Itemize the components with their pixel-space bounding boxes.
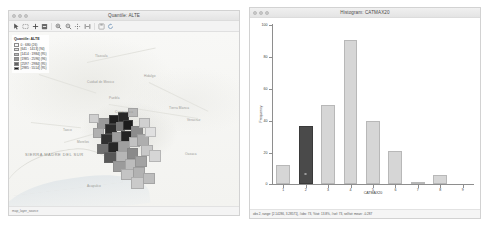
legend-swatch xyxy=(14,48,19,51)
legend-title: Quantile: ALTE xyxy=(14,37,47,42)
histogram-bar-slot[interactable] xyxy=(407,26,429,184)
map-place-label: Acapulco xyxy=(87,184,101,188)
histogram-window-title: Histogram: CATMAX20 xyxy=(250,10,480,15)
histogram-plot-area[interactable]: 0 20 40 60 80 100 xyxy=(272,26,474,185)
save-box-tool[interactable] xyxy=(97,22,105,30)
histogram-bar[interactable] xyxy=(344,40,358,184)
magnify-out-tool[interactable] xyxy=(64,22,72,30)
select-rectangle-tool[interactable] xyxy=(22,22,30,30)
histogram-status-bar: obs 2, range: [2.14286, 3.28571], #obs: … xyxy=(250,209,480,218)
legend-swatch xyxy=(14,62,19,65)
toolbar-separator xyxy=(51,23,52,30)
full-extent-tool[interactable] xyxy=(83,22,91,30)
map-window-titlebar[interactable]: Quantile: ALTE xyxy=(9,11,239,21)
toolbar-separator xyxy=(94,23,95,30)
map-place-label: Hidalgo xyxy=(144,74,156,78)
histogram-window-titlebar[interactable]: Histogram: CATMAX20 xyxy=(250,8,480,18)
y-axis-tick-label: 80 xyxy=(263,55,267,59)
map-status-text: map_layer_source xyxy=(12,209,38,213)
histogram-bar[interactable] xyxy=(433,175,447,184)
legend-swatch xyxy=(14,53,19,56)
selection-marker-icon xyxy=(304,173,306,175)
map-legend: Quantile: ALTE 0 : 680 (26) [641 : 1413]… xyxy=(12,35,49,73)
histogram-window: Histogram: CATMAX20 Frequency 0 20 40 60 xyxy=(249,7,481,219)
map-place-label: Veracruz xyxy=(187,118,200,122)
map-toolbar xyxy=(9,21,239,32)
y-axis-tick-label: 60 xyxy=(263,87,267,91)
choropleth-polygon[interactable] xyxy=(143,173,155,184)
histogram-bar[interactable] xyxy=(276,165,290,184)
histogram-status-text: obs 2, range: [2.14286, 3.28571], #obs: … xyxy=(253,212,372,216)
magnify-in-tool[interactable] xyxy=(55,22,63,30)
histogram-bar-slot[interactable] xyxy=(429,26,451,184)
histogram-bar[interactable] xyxy=(366,121,380,184)
legend-swatch xyxy=(14,43,19,46)
y-axis-tick-label: 20 xyxy=(263,151,267,155)
y-axis-tick-label: 0 xyxy=(265,182,267,186)
y-axis-tick-label: 100 xyxy=(261,23,267,27)
histogram-canvas[interactable]: Frequency 0 20 40 60 80 xyxy=(250,18,480,209)
histogram-bar-slot[interactable] xyxy=(362,26,384,184)
histogram-bar[interactable] xyxy=(411,182,425,184)
histogram-bar-slot[interactable] xyxy=(384,26,406,184)
map-place-label: Tlaxcala xyxy=(95,54,108,58)
map-place-label: Taxco xyxy=(63,128,72,132)
histogram-bars xyxy=(272,26,474,184)
map-place-label: Morelos xyxy=(77,140,89,144)
map-region-label: SIERRA MADRE DEL SUR xyxy=(25,152,84,157)
histogram-bar-slot[interactable] xyxy=(317,26,339,184)
map-place-label: Cuidad de Mexico xyxy=(87,80,114,84)
y-axis-tick: 0 xyxy=(269,184,272,185)
histogram-bar-slot[interactable] xyxy=(452,26,474,184)
choropleth-polygon[interactable] xyxy=(135,156,147,167)
map-place-label: Puebla xyxy=(109,96,120,100)
histogram-bar-slot[interactable] xyxy=(339,26,361,184)
map-window-title: Quantile: ALTE xyxy=(9,13,239,18)
zoom-out-tool[interactable] xyxy=(41,22,49,30)
legend-item[interactable]: [2985 : 5514] (95) xyxy=(14,66,47,71)
zoom-in-tool[interactable] xyxy=(31,22,39,30)
map-place-label: Cuernavaca xyxy=(115,110,133,114)
histogram-bar-slot[interactable] xyxy=(272,26,294,184)
refresh-tool[interactable] xyxy=(107,22,115,30)
map-place-label: Tierra Blanca xyxy=(169,106,189,110)
histogram-bar[interactable] xyxy=(388,151,402,184)
legend-item-label: [2985 : 5514] (95) xyxy=(21,66,47,71)
select-pointer-tool[interactable] xyxy=(12,22,20,30)
choropleth-polygon[interactable] xyxy=(89,114,99,123)
choropleth-polygon[interactable] xyxy=(145,127,156,137)
x-axis-label: CATMAX20 xyxy=(272,191,474,195)
map-place-label: Oaxaca xyxy=(185,152,197,156)
legend-swatch xyxy=(14,57,19,60)
y-axis-tick-label: 40 xyxy=(263,119,267,123)
map-canvas[interactable]: Tlaxcala Cuidad de Mexico Puebla Morelos… xyxy=(9,32,239,206)
desktop-root: Quantile: ALTE xyxy=(0,0,484,229)
map-status-bar: map_layer_source xyxy=(9,206,239,215)
pan-tool[interactable] xyxy=(74,22,82,30)
legend-swatch xyxy=(14,67,19,70)
histogram-bar-slot[interactable] xyxy=(294,26,316,184)
histogram-bar[interactable] xyxy=(321,105,335,184)
quantile-map-window: Quantile: ALTE xyxy=(8,10,240,216)
choropleth-polygon[interactable] xyxy=(149,150,161,162)
histogram-bar[interactable] xyxy=(299,126,313,185)
